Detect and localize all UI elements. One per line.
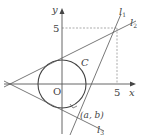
point-ab-label: (a, b) bbox=[80, 110, 104, 120]
origin-label: O bbox=[53, 86, 61, 97]
y-axis-label: y bbox=[51, 4, 58, 15]
l1-sub: 1 bbox=[122, 11, 126, 18]
x-axis-label: x bbox=[129, 87, 135, 98]
y-tick-5: 5 bbox=[53, 23, 59, 34]
y-axis-arrow-icon bbox=[60, 8, 65, 14]
l3-label: l3 bbox=[97, 124, 104, 136]
l2-sub: 2 bbox=[133, 22, 137, 29]
circle-label: C bbox=[81, 57, 89, 68]
x-axis-arrow-icon bbox=[130, 82, 136, 87]
coordinate-diagram: y 5 5 x O C (a, b) l1 l2 l3 bbox=[0, 0, 141, 138]
l2-label: l2 bbox=[130, 17, 137, 29]
l3-sub: 3 bbox=[100, 129, 104, 136]
l1-label: l1 bbox=[119, 6, 126, 18]
x-tick-5: 5 bbox=[114, 87, 120, 98]
